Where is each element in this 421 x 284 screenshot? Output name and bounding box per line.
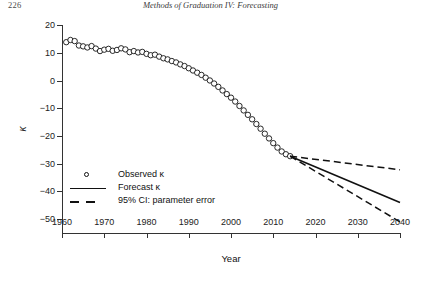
legend-label-observed: Observed κ (118, 169, 164, 179)
legend-key-circle-marker (68, 169, 112, 181)
y-tick-label: 20 (7, 20, 55, 30)
observed-points (64, 37, 293, 159)
running-title: Methods of Graduation IV: Forecasting (0, 0, 421, 10)
figure-page: 226 Methods of Graduation IV: Forecastin… (0, 0, 421, 284)
x-tick-label: 2020 (305, 217, 325, 227)
x-tick-label: 2030 (348, 217, 368, 227)
y-axis-tick-labels: 20100−10−20−30−40−50 (0, 25, 55, 233)
x-axis-title: Year (221, 253, 240, 264)
x-axis-tick-labels: 196019701980199020002010202020302040 (62, 209, 400, 235)
y-tick-label: −10 (7, 103, 55, 113)
legend-key-dashed-line (68, 195, 112, 207)
y-tick-label: 10 (7, 48, 55, 58)
legend-label-ci: 95% CI: parameter error (118, 195, 215, 205)
legend-key-solid-line (68, 182, 112, 194)
x-tick-label: 2040 (390, 217, 410, 227)
legend-label-forecast: Forecast κ (118, 182, 160, 192)
legend-item-observed: Observed κ (68, 169, 228, 181)
x-tick-label: 1990 (179, 217, 199, 227)
legend-item-forecast: Forecast κ (68, 182, 228, 194)
y-tick-label: 0 (7, 76, 55, 86)
x-tick-label: 1970 (94, 217, 114, 227)
chart-legend: Observed κ Forecast κ 95% CI: parameter … (68, 169, 228, 207)
x-tick-label: 2000 (221, 217, 241, 227)
y-axis-title: κ (17, 127, 28, 132)
x-tick-label: 2010 (263, 217, 283, 227)
x-tick (400, 233, 401, 238)
x-tick-label: 1960 (52, 217, 72, 227)
y-tick-label: −50 (7, 214, 55, 224)
running-head: 226 Methods of Graduation IV: Forecastin… (0, 0, 421, 12)
y-tick-label: −30 (7, 159, 55, 169)
legend-item-ci: 95% CI: parameter error (68, 195, 228, 207)
y-tick-label: −40 (7, 186, 55, 196)
y-tick-label: −20 (7, 131, 55, 141)
x-tick-label: 1980 (136, 217, 156, 227)
